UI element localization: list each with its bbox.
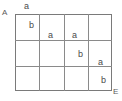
mark-b-row1-col1: b	[29, 21, 34, 30]
mark-b-row3-col4: b	[101, 76, 106, 85]
mark-a-row1-col2: a	[48, 31, 53, 40]
grid-hline-1	[15, 40, 112, 41]
mark-a-row1-col3: a	[72, 31, 77, 40]
grid-vline-1	[39, 14, 40, 91]
mark-a-row2-col4: a	[98, 58, 103, 67]
grid-vline-2	[64, 14, 65, 91]
mark-a-above-grid: a	[24, 2, 29, 11]
corner-label-e: E	[113, 88, 118, 96]
mark-b-row2-col3: b	[78, 50, 83, 59]
grid-diagram: A a b a a b a b E	[0, 0, 122, 101]
corner-label-a: A	[2, 9, 7, 17]
grid-vline-3	[88, 14, 89, 91]
